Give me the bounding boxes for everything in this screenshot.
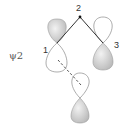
- filled-lobe-top: [48, 19, 66, 43]
- atom-label-1: 1: [43, 46, 48, 55]
- dashed-bond: [58, 60, 81, 85]
- open-lobe-bottom: [46, 43, 67, 72]
- open-lobe-top: [94, 17, 112, 43]
- filled-lobe-bottom: [93, 43, 113, 70]
- p-orbital-atom-3: [93, 17, 113, 70]
- p-orbital-lower: [71, 73, 89, 123]
- atom-label-3: 3: [114, 41, 119, 50]
- molecular-orbital-diagram: [0, 0, 127, 133]
- atom-2-dot: [79, 16, 82, 19]
- atom-label-2: 2: [76, 4, 81, 13]
- filled-lobe-bottom: [71, 98, 89, 123]
- open-lobe-top: [72, 73, 89, 98]
- p-orbital-atom-1: [46, 19, 67, 72]
